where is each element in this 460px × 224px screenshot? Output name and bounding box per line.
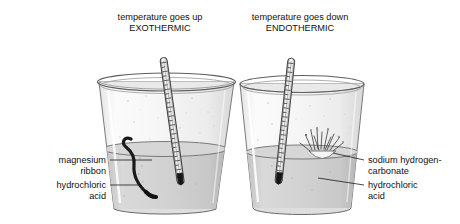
endothermic-caption-line1: temperature goes down bbox=[252, 12, 349, 22]
acid-liquid-body bbox=[246, 152, 358, 208]
label-hydrochloric-acid-right-line2: acid bbox=[368, 191, 385, 201]
liquid-surface-ellipse bbox=[246, 145, 358, 159]
label-hydrochloric-acid-left-line1: hydrochloric bbox=[56, 180, 106, 190]
endothermic-caption-line2: ENDOTHERMIC bbox=[266, 23, 335, 33]
label-hydrochloric-acid-right-line1: hydrochloric bbox=[368, 180, 418, 190]
panel-endothermic: temperature goes down ENDOTHERMIC bbox=[240, 12, 364, 215]
exothermic-caption-line1: temperature goes up bbox=[118, 12, 203, 22]
beaker-base bbox=[114, 209, 216, 214]
liquid-group-exothermic bbox=[103, 142, 227, 210]
exothermic-caption-line2: EXOTHERMIC bbox=[129, 23, 191, 33]
label-sodium-hydrogencarbonate-line2: carbonate bbox=[368, 166, 409, 176]
panel-exothermic: temperature goes up EXOTHERMIC bbox=[98, 12, 236, 214]
label-sodium-hydrogencarbonate-line1: sodium hydrogen- bbox=[368, 155, 442, 165]
chemistry-diagram: temperature goes up EXOTHERMIC bbox=[0, 0, 460, 224]
acid-liquid-body bbox=[103, 149, 227, 209]
liquid-surface-ellipse bbox=[103, 142, 227, 157]
beaker-base bbox=[253, 208, 351, 215]
diagram-canvas: temperature goes up EXOTHERMIC bbox=[0, 0, 460, 224]
label-magnesium-ribbon-line2: ribbon bbox=[80, 166, 106, 176]
label-magnesium-ribbon-line1: magnesium bbox=[59, 155, 107, 165]
label-hydrochloric-acid-left-line2: acid bbox=[89, 191, 106, 201]
